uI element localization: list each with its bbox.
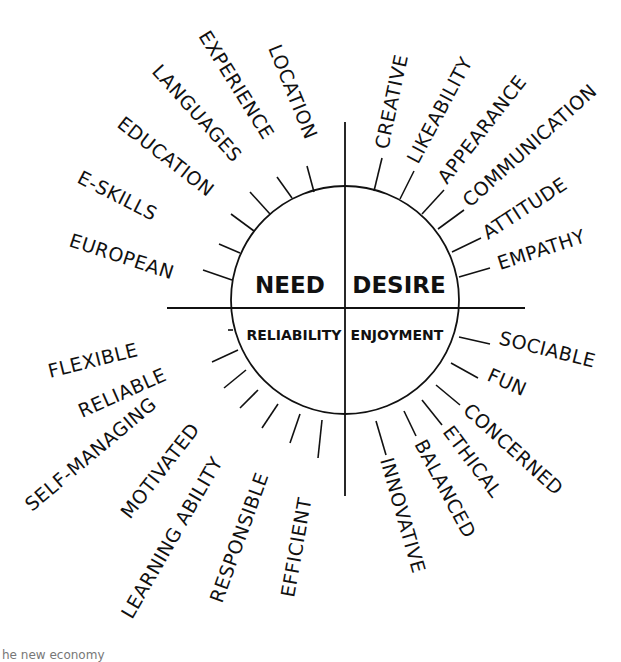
desire-labels: CREATIVE LIKEABILITY APPEARANCE COMMUNIC…: [370, 52, 600, 274]
label-fun: FUN: [484, 364, 530, 401]
quadrant-desire: DESIRE: [352, 272, 445, 298]
quadrant-enjoyment: ENJOYMENT: [351, 327, 444, 343]
label-european: EUROPEAN: [67, 229, 177, 284]
desire-spokes: [374, 158, 490, 277]
label-innovative: INNOVATIVE: [376, 455, 430, 576]
enjoyment-labels: SOCIABLE FUN CONCERNED ETHICAL BALANCED …: [376, 327, 598, 576]
label-responsible: RESPONSIBLE: [205, 469, 272, 605]
label-efficient: EFFICIENT: [276, 496, 315, 599]
quadrant-need: NEED: [255, 272, 325, 298]
figure-caption-cutoff: he new economy: [2, 648, 104, 662]
reliability-labels: FLEXIBLE RELIABLE SELF-MANAGING MOTIVATE…: [20, 338, 315, 622]
label-sociable: SOCIABLE: [497, 327, 598, 372]
label-e-skills: E-SKILLS: [74, 166, 161, 225]
label-creative: CREATIVE: [370, 52, 412, 151]
label-empathy: EMPATHY: [494, 225, 588, 274]
enjoyment-spokes: [376, 337, 490, 455]
need-labels: EUROPEAN E-SKILLS EDUCATION LANGUAGES EX…: [67, 26, 322, 283]
reliability-spokes: [212, 330, 322, 458]
need-spokes: [203, 166, 314, 280]
label-flexible: FLEXIBLE: [46, 338, 140, 382]
quadrant-reliability: RELIABILITY: [246, 327, 342, 343]
